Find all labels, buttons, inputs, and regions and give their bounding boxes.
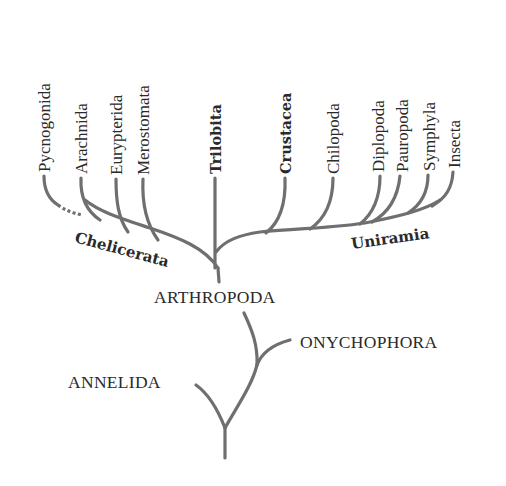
annelida-branch [196,385,225,428]
eurypterida-branch [116,179,128,232]
taxon-eurypterida: Eurypterida [107,94,126,175]
pycnogonida-branch [44,176,58,205]
arachnida-branch [81,178,100,220]
tree-branches [44,172,453,458]
terminal-labels: Pycnogonida Arachnida Eurypterida Merost… [35,83,464,175]
arthropoda-stem [244,313,257,365]
taxon-pauropoda: Pauropoda [393,99,412,172]
taxon-arachnida: Arachnida [72,103,91,174]
insecta-branch [432,172,453,206]
phylum-label-annelida: ANNELIDA [68,372,161,392]
onychophora-branch [257,340,290,365]
group-label-uniramia: Uniramia [350,224,431,253]
taxon-insecta: Insecta [445,119,464,168]
diplopoda-branch [360,176,380,224]
arthropoda-upper-stem [218,268,219,282]
taxon-trilobita: Trilobita [207,104,224,174]
taxon-merostomata: Merostomata [134,85,153,175]
chilopoda-branch [310,178,333,229]
pycnogonida-dashed-link [58,205,82,215]
stem-to-onychophora-node [225,365,257,428]
taxon-pycnogonida: Pycnogonida [35,83,54,172]
phylogenetic-tree: Pycnogonida Arachnida Eurypterida Merost… [0,0,506,486]
crustacea-branch [266,178,285,233]
taxon-crustacea: Crustacea [277,92,294,174]
taxon-symphyla: Symphyla [420,102,439,171]
group-label-chelicerata: Chelicerata [73,228,171,270]
taxon-chilopoda: Chilopoda [324,103,343,174]
phylum-label-arthropoda: ARTHROPODA [154,287,276,307]
phylum-label-onychophora: ONYCHOPHORA [300,332,438,352]
taxon-diplopoda: Diplopoda [369,100,388,172]
